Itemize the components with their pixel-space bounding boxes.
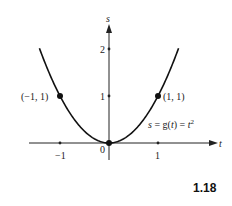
tick-s1 bbox=[108, 95, 111, 98]
s-axis-arrow-icon bbox=[106, 24, 112, 33]
t-axis-label: t bbox=[219, 138, 222, 149]
point-label-right: (1, 1) bbox=[163, 91, 185, 103]
tick-neg1 bbox=[59, 142, 62, 145]
parabola-chart: s t −1 1 1 2 0 (−1, 1) (1, 1) s = g(t) =… bbox=[0, 0, 232, 206]
point-label-left: (−1, 1) bbox=[21, 91, 48, 103]
tick-s2 bbox=[108, 48, 111, 51]
tick-label-1: 1 bbox=[155, 150, 160, 161]
equation-label: s = g(t) = t2 bbox=[148, 118, 194, 131]
point-neg1-1 bbox=[57, 93, 63, 99]
t-axis-arrow-icon bbox=[209, 140, 218, 146]
origin-label: 0 bbox=[100, 144, 105, 155]
point-origin bbox=[106, 140, 112, 146]
point-1-1 bbox=[155, 93, 161, 99]
figure-number: 1.18 bbox=[193, 181, 216, 195]
tick-1 bbox=[157, 142, 160, 145]
tick-label-neg1: −1 bbox=[55, 150, 66, 161]
tick-label-s1: 1 bbox=[100, 91, 105, 102]
tick-label-s2: 2 bbox=[100, 44, 105, 55]
s-axis-label: s bbox=[106, 13, 110, 24]
eq-exp: 2 bbox=[190, 118, 194, 126]
eq-close: ) = bbox=[174, 119, 188, 131]
eq-eq1: = g( bbox=[152, 119, 172, 131]
